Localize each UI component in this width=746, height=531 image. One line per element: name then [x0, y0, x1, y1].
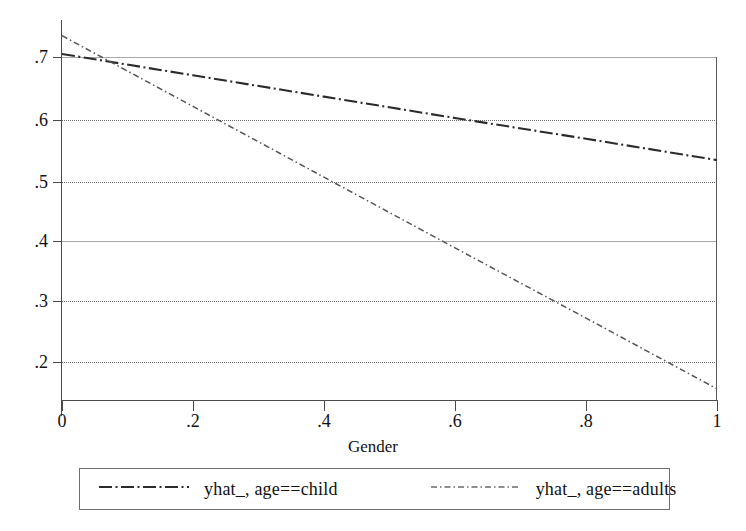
- series-line-adults: [62, 36, 717, 389]
- legend-entry-child[interactable]: yhat_, age==child: [98, 469, 338, 509]
- legend-label-adults: yhat_, age==adults: [536, 479, 677, 500]
- series-layer: [0, 0, 746, 531]
- chart-root: .7 .6 .5 .4 .3 .2 0 .2 .4 .6 .8 1 Gender…: [0, 0, 746, 531]
- legend: yhat_, age==child yhat_, age==adults: [79, 468, 670, 510]
- series-line-child: [62, 54, 717, 160]
- legend-label-child: yhat_, age==child: [204, 479, 338, 500]
- legend-entry-adults[interactable]: yhat_, age==adults: [430, 469, 677, 509]
- legend-key-child-icon: [98, 482, 190, 496]
- legend-key-adults-icon: [430, 482, 522, 496]
